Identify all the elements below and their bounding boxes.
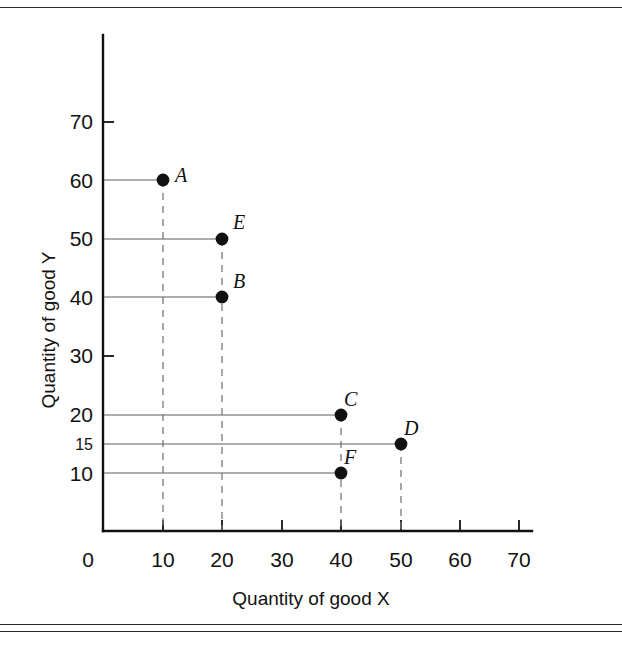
x-tick-label-30: 30 (270, 548, 293, 571)
y-tick-label-30: 30 (70, 344, 93, 367)
vertical-guide-lines (163, 180, 401, 530)
data-point-label-C: C (344, 388, 358, 410)
data-points (157, 174, 408, 480)
axes (103, 35, 532, 531)
data-point-B[interactable] (216, 291, 229, 304)
scatter-chart: A E B C D F 70 60 50 40 30 20 15 10 0 10… (0, 0, 622, 650)
y-tick-label-40: 40 (70, 286, 93, 309)
data-point-label-F: F (343, 446, 357, 468)
x-axis-title: Quantity of good X (232, 588, 390, 609)
x-tick-label-0: 0 (82, 548, 94, 571)
data-point-label-B: B (233, 270, 245, 292)
figure-container: A E B C D F 70 60 50 40 30 20 15 10 0 10… (0, 0, 622, 650)
data-point-D[interactable] (395, 438, 408, 451)
data-point-label-E: E (232, 211, 245, 233)
y-axis-tick-labels: 70 60 50 40 30 20 15 10 (70, 110, 93, 485)
data-point-labels: A E B C D F (173, 164, 419, 468)
x-tick-label-50: 50 (389, 548, 412, 571)
x-tick-label-70: 70 (507, 548, 530, 571)
x-tick-label-60: 60 (448, 548, 471, 571)
x-tick-label-20: 20 (210, 548, 233, 571)
frame-bottom-rule-outer (0, 624, 622, 625)
y-tick-label-20: 20 (70, 403, 93, 426)
x-tick-label-10: 10 (151, 548, 174, 571)
y-tick-label-50: 50 (70, 227, 93, 250)
frame-top-rule (0, 7, 622, 8)
x-tick-label-40: 40 (329, 548, 352, 571)
y-tick-label-10: 10 (70, 462, 93, 485)
data-point-E[interactable] (216, 233, 229, 246)
y-axis-title: Quantity of good Y (38, 251, 59, 408)
data-point-label-D: D (403, 417, 419, 439)
y-tick-label-70: 70 (70, 110, 93, 133)
horizontal-guide-lines (104, 180, 401, 473)
frame-bottom-rule-inner (0, 631, 622, 632)
y-tick-label-60: 60 (70, 169, 93, 192)
x-axis-tick-labels: 0 10 20 30 40 50 60 70 (82, 548, 531, 571)
data-point-F[interactable] (335, 467, 348, 480)
data-point-A[interactable] (157, 174, 170, 187)
data-point-C[interactable] (335, 409, 348, 422)
y-tick-label-15: 15 (75, 436, 93, 453)
data-point-label-A: A (173, 164, 188, 186)
